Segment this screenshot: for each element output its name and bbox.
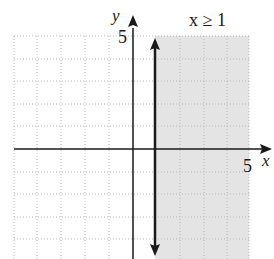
- shaded-region: [155, 36, 249, 259]
- x-axis-label: x: [261, 151, 270, 170]
- y-tick-5-label: 5: [118, 27, 127, 47]
- x-tick-5-label: 5: [243, 156, 252, 176]
- y-axis-label: y: [110, 6, 120, 25]
- y-axis: [128, 15, 138, 259]
- inequality-graph: y 5 x ≥ 1 5 x: [0, 0, 274, 259]
- chart-title: x ≥ 1: [189, 10, 226, 30]
- y-axis-arrow-icon: [128, 15, 138, 27]
